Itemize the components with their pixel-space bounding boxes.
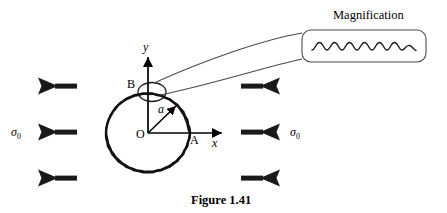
x-axis-label: x — [212, 137, 217, 149]
stress-arrow-right-2 — [241, 124, 280, 141]
stress-arrows-left — [38, 78, 77, 187]
origin-label: O — [136, 128, 145, 140]
callout-leader-lower — [160, 59, 302, 95]
stress-arrows-right — [241, 78, 280, 187]
y-axis-label: y — [143, 41, 148, 53]
detail-circle-at-b — [138, 83, 166, 102]
figure-container: Magnification y x O A B a σ0 σ0 Figure 1… — [0, 0, 447, 213]
stress-label-left: σ0 — [11, 126, 21, 141]
stress-arrow-left-1 — [38, 78, 77, 95]
magnification-label: Magnification — [333, 9, 404, 22]
stress-label-right: σ0 — [290, 126, 300, 141]
point-b-label: B — [127, 78, 135, 90]
figure-caption: Figure 1.41 — [191, 194, 251, 207]
stress-arrow-right-3 — [241, 170, 280, 187]
stress-subscript-right: 0 — [296, 132, 300, 141]
callout-leader-upper — [154, 33, 302, 83]
figure-graphics — [0, 0, 447, 213]
stress-subscript-left: 0 — [17, 132, 21, 141]
point-a-label: A — [190, 134, 199, 146]
stress-arrow-left-2 — [38, 124, 77, 141]
radius-label: a — [158, 103, 164, 115]
stress-arrow-left-3 — [38, 170, 77, 187]
stress-arrow-right-1 — [241, 78, 280, 95]
